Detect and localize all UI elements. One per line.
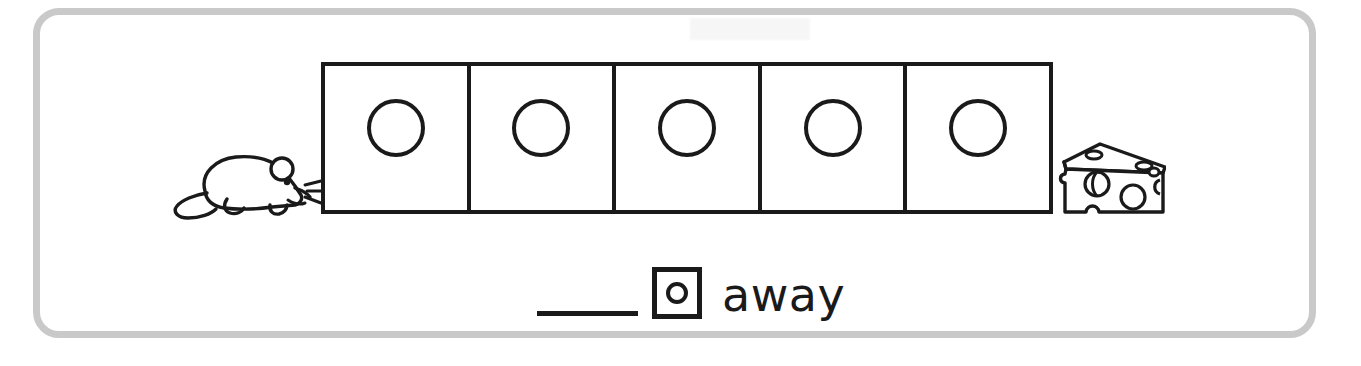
mouse-icon — [166, 148, 326, 226]
hop-box[interactable] — [616, 66, 762, 210]
circle-marker-icon — [949, 99, 1007, 157]
away-label: away — [722, 272, 845, 318]
hop-box[interactable] — [907, 66, 1049, 210]
answer-blank-input[interactable] — [537, 311, 638, 316]
circle-marker-icon — [512, 99, 570, 157]
hop-box[interactable] — [471, 66, 617, 210]
cheese-icon — [1056, 140, 1166, 222]
worksheet-page: away — [0, 0, 1361, 366]
hop-boxes — [321, 62, 1053, 214]
circle-marker-icon — [666, 282, 688, 304]
circle-marker-icon — [367, 99, 425, 157]
answer-row: away — [537, 262, 845, 324]
hop-box[interactable] — [762, 66, 908, 210]
circle-marker-icon — [658, 99, 716, 157]
circle-marker-icon — [804, 99, 862, 157]
box-with-circle-icon — [652, 267, 702, 319]
hop-box[interactable] — [325, 66, 471, 210]
